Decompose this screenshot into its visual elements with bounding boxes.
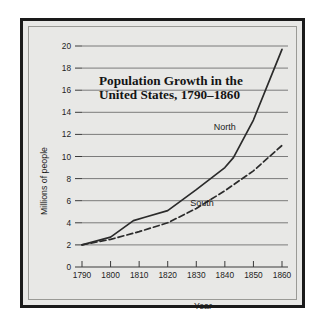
y-axis-tick-label: 10 <box>62 152 72 162</box>
chart-title-line-1: Population Growth in the <box>99 73 243 88</box>
y-axis-tick-label: 14 <box>62 107 72 117</box>
x-axis-tick-label: 1810 <box>130 270 149 280</box>
x-axis-tick-label: 1790 <box>73 270 92 280</box>
y-axis-tick-label: 6 <box>66 196 71 206</box>
figure-frame: 02468101214161820 1790180018101820183018… <box>20 18 305 308</box>
y-axis-tick-label: 12 <box>62 129 72 139</box>
y-axis-tick-label: 0 <box>66 262 71 272</box>
y-axis-title: Millions of people <box>39 147 49 215</box>
x-axis-title: Year <box>194 301 212 311</box>
y-axis-tick-label: 4 <box>66 218 71 228</box>
y-axis-tick-label: 20 <box>62 41 72 51</box>
y-axis-tick-labels: 02468101214161820 <box>62 41 72 272</box>
x-axis-tick-label: 1840 <box>216 270 235 280</box>
x-axis-tick-labels: 17901800181018201830184018501860 <box>73 270 292 280</box>
series-label-north: North <box>214 122 236 132</box>
x-axis-tick-label: 1860 <box>273 270 292 280</box>
y-axis-tick-label: 2 <box>66 240 71 250</box>
x-axis <box>82 261 288 267</box>
series-label-south: South <box>190 198 214 208</box>
population-growth-line-chart: 02468101214161820 1790180018101820183018… <box>23 21 308 311</box>
x-axis-tick-label: 1820 <box>158 270 177 280</box>
y-axis-tick-label: 16 <box>62 85 72 95</box>
series-line-south <box>82 145 282 244</box>
chart-title-line-2: United States, 1790–1860 <box>99 87 240 102</box>
chart-svg: 02468101214161820 1790180018101820183018… <box>23 21 308 311</box>
x-axis-tick-label: 1800 <box>101 270 120 280</box>
x-axis-tick-label: 1830 <box>187 270 206 280</box>
y-axis-tick-label: 8 <box>66 174 71 184</box>
y-axis-tick-label: 18 <box>62 63 72 73</box>
x-axis-tick-label: 1850 <box>244 270 263 280</box>
